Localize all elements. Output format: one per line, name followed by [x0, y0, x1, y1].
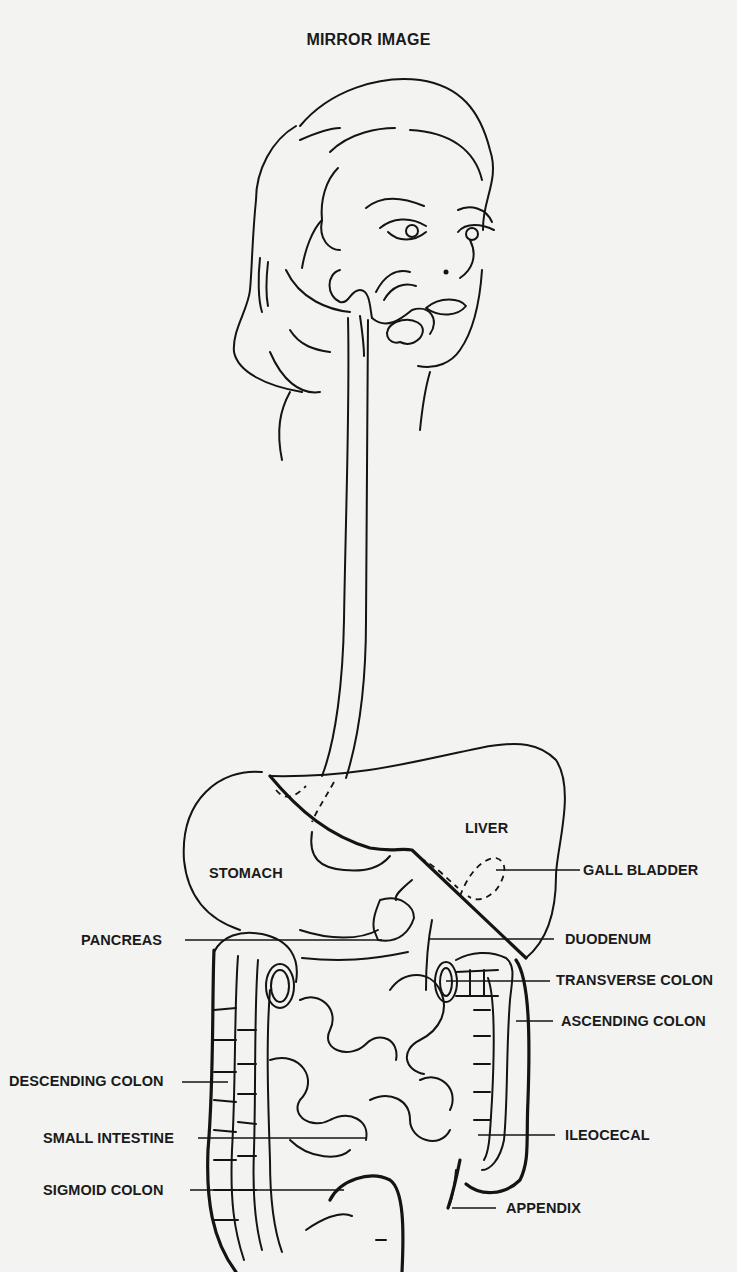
esophagus-illustration — [322, 318, 368, 778]
label-small-intestine: SMALL INTESTINE — [43, 1130, 174, 1146]
label-ileocecal: ILEOCECAL — [565, 1127, 650, 1143]
label-ascending-colon: ASCENDING COLON — [561, 1013, 706, 1029]
label-transverse-colon: TRANSVERSE COLON — [556, 972, 713, 988]
label-sigmoid-colon: SIGMOID COLON — [43, 1182, 164, 1198]
label-stomach: STOMACH — [209, 865, 283, 881]
label-liver: LIVER — [465, 820, 508, 836]
intestines-illustration — [208, 898, 529, 1272]
label-descending-colon: DESCENDING COLON — [9, 1073, 164, 1089]
leader-lines — [182, 870, 580, 1208]
label-duodenum: DUODENUM — [565, 931, 651, 947]
label-gall-bladder: GALL BLADDER — [583, 862, 698, 878]
label-pancreas: PANCREAS — [81, 932, 162, 948]
anatomy-diagram: MIRROR IMAGE — [0, 0, 737, 1272]
head-illustration — [234, 79, 494, 460]
label-appendix: APPENDIX — [506, 1200, 581, 1216]
liver-illustration — [270, 744, 565, 958]
